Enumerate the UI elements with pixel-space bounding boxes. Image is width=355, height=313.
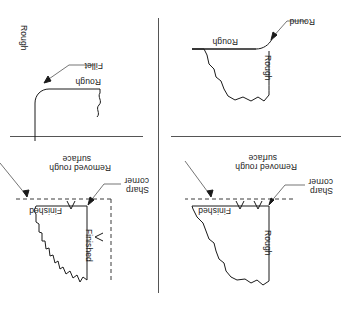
fillet-corner-outline bbox=[35, 89, 100, 135]
panel-top-left: Rough Finished Sharp corner Removed roug… bbox=[159, 137, 355, 313]
removed-rough-arrowhead bbox=[23, 190, 29, 197]
block-outline-finished-left bbox=[34, 206, 87, 282]
label-rough-horizontal: Rough bbox=[75, 77, 101, 87]
block-outline-rough-right bbox=[192, 206, 269, 285]
panel-bottom-right-graphic bbox=[0, 0, 159, 137]
label-round: Round bbox=[289, 17, 315, 27]
label-rough-horizontal: Rough bbox=[212, 37, 238, 47]
label-fillet: Fillet bbox=[84, 61, 103, 71]
panel-bottom-right: Rough Rough Fillet bbox=[0, 0, 159, 137]
drawing-plate: Rough Finished Sharp corner Removed roug… bbox=[0, 0, 355, 313]
label-sharp-corner-line2: corner bbox=[124, 176, 149, 186]
panel-top-right: Finished Finished Sharp corner Removed r… bbox=[0, 137, 159, 313]
panel-bottom-left: Rough Rough Round bbox=[159, 0, 355, 137]
surface-finish-mark-horizontal bbox=[67, 201, 75, 209]
surface-finish-mark-2 bbox=[236, 201, 244, 209]
removed-rough-arrowhead bbox=[207, 190, 213, 197]
label-rough-vertical: Rough bbox=[19, 25, 29, 51]
removed-rough-leader bbox=[185, 161, 210, 195]
panel-bottom-left-graphic bbox=[159, 0, 355, 137]
label-sharp-corner-line2: corner bbox=[308, 177, 333, 187]
removed-rough-leader bbox=[0, 163, 26, 195]
label-removed-rough-line2: surface bbox=[62, 154, 91, 164]
sharp-corner-leader bbox=[269, 185, 305, 204]
label-finished-horizontal: Finished bbox=[29, 206, 62, 216]
surface-finish-mark-1 bbox=[254, 201, 262, 209]
surface-finish-mark-vertical bbox=[95, 233, 103, 241]
block-outline-rough-round bbox=[192, 39, 272, 101]
label-finished: Finished bbox=[198, 206, 231, 216]
fillet-arrowhead bbox=[44, 76, 51, 83]
label-removed-rough-line2: surface bbox=[248, 153, 277, 163]
label-rough-vertical: Rough bbox=[263, 55, 273, 81]
label-rough-vertical: Rough bbox=[263, 230, 273, 256]
label-finished-vertical: Finished bbox=[84, 229, 94, 262]
